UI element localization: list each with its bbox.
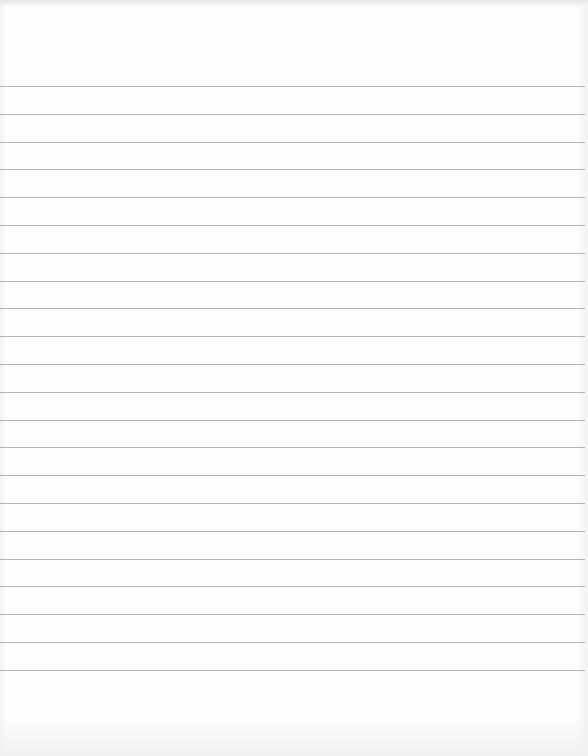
ruled-line	[0, 670, 585, 671]
ruled-line	[0, 364, 585, 365]
ruled-line	[0, 586, 585, 587]
ruled-line	[0, 475, 585, 476]
ruled-line	[0, 169, 585, 170]
ruled-line	[0, 447, 585, 448]
lined-paper-sheet	[0, 0, 588, 756]
ruled-line	[0, 614, 585, 615]
scan-edge-band	[0, 0, 588, 7]
ruled-line	[0, 281, 585, 282]
ruled-line	[0, 336, 585, 337]
ruled-line	[0, 392, 585, 393]
ruled-line	[0, 114, 585, 115]
ruled-line	[0, 531, 585, 532]
ruled-line	[0, 420, 585, 421]
ruled-line	[0, 86, 585, 87]
ruled-line	[0, 308, 585, 309]
ruled-line	[0, 559, 585, 560]
ruled-line	[0, 503, 585, 504]
ruled-line	[0, 197, 585, 198]
ruled-line	[0, 225, 585, 226]
ruled-line	[0, 642, 585, 643]
ruled-line	[0, 142, 585, 143]
bottom-shadow	[0, 716, 588, 756]
ruled-line	[0, 253, 585, 254]
